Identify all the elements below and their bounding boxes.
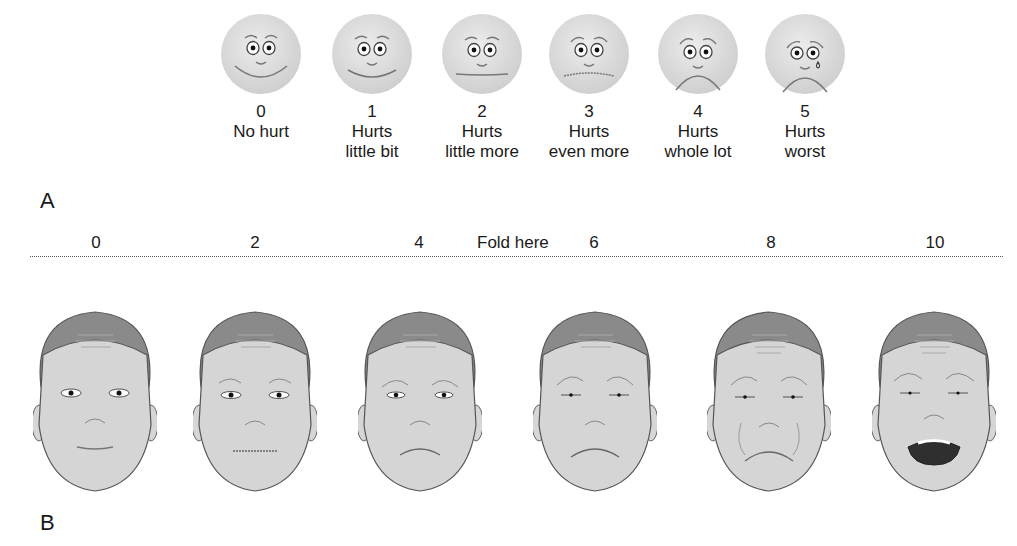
smile-face-icon	[330, 12, 414, 96]
tear-drop-icon	[817, 62, 820, 68]
fold-line	[30, 256, 1003, 257]
slight-frown-face-icon	[547, 12, 631, 96]
scale-number: 0	[91, 233, 100, 253]
panel-a-label: A	[40, 188, 55, 214]
face-label-line1: Hurts	[739, 122, 871, 142]
face-crying-open-mouth-icon	[872, 295, 996, 495]
frown-face-icon	[656, 12, 740, 96]
scale-number: 10	[926, 233, 945, 253]
face-frown-icon	[358, 295, 482, 495]
face-score: 4	[652, 102, 744, 122]
face-squint-frown-icon	[533, 295, 657, 495]
crying-face-icon	[763, 12, 847, 96]
scale-number: 8	[766, 233, 775, 253]
cartoon-face-5: 5 Hurts worst	[759, 12, 851, 162]
face-neutral-icon	[33, 295, 157, 495]
face-mild-concern-icon	[193, 295, 317, 495]
cartoon-face-4: 4 Hurts whole lot	[652, 12, 744, 162]
flat-face-icon	[440, 12, 524, 96]
cartoon-face-2: 2 Hurts little more	[436, 12, 528, 162]
fold-here-label: Fold here	[477, 233, 549, 253]
scale-number: 4	[414, 233, 423, 253]
big-smile-face-icon	[219, 12, 303, 96]
cartoon-face-3: 3 Hurts even more	[543, 12, 635, 162]
cartoon-face-0: 0 No hurt	[215, 12, 307, 142]
face-score: 5	[759, 102, 851, 122]
face-score: 0	[215, 102, 307, 122]
face-score: 1	[326, 102, 418, 122]
face-score: 3	[543, 102, 635, 122]
scale-number: 6	[589, 233, 598, 253]
face-grimace-icon	[707, 295, 831, 495]
panel-b-label: B	[40, 510, 55, 536]
face-score: 2	[436, 102, 528, 122]
cartoon-face-1: 1 Hurts little bit	[326, 12, 418, 162]
scale-number: 2	[250, 233, 259, 253]
face-label-line2: worst	[739, 142, 871, 162]
